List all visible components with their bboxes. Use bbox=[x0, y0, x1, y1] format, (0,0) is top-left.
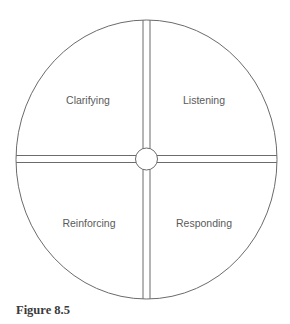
quadrant-label-listening: Listening bbox=[183, 94, 225, 106]
quadrant-label-responding: Responding bbox=[176, 217, 232, 229]
quadrant-label-reinforcing: Reinforcing bbox=[62, 217, 115, 229]
figure-caption: Figure 8.5 bbox=[16, 303, 70, 318]
quadrant-diagram: Clarifying Listening Reinforcing Respond… bbox=[0, 0, 290, 300]
center-hub-circle bbox=[136, 148, 158, 170]
quadrant-label-clarifying: Clarifying bbox=[66, 94, 110, 106]
